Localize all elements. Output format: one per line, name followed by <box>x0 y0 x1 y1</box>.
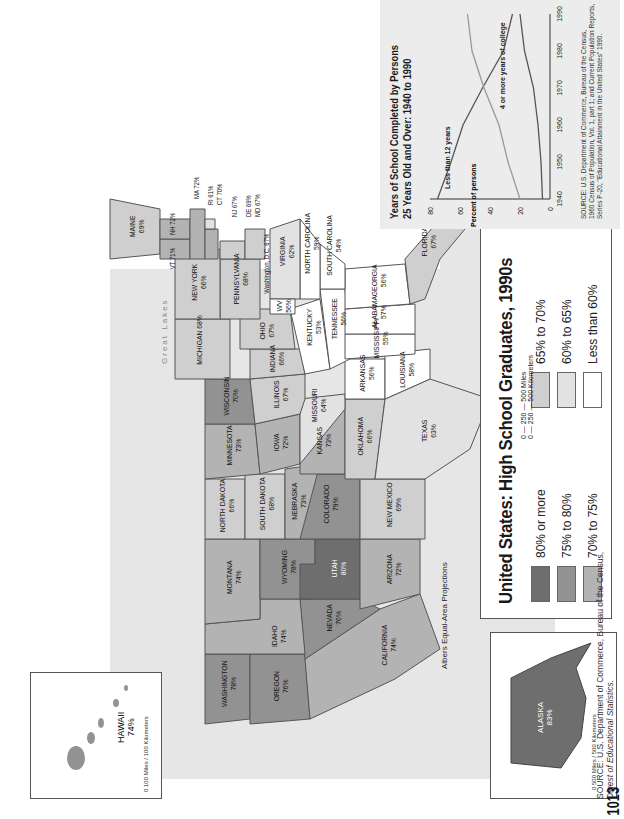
legend-item-60-65: 60% to 65% <box>557 299 576 408</box>
label-indiana: INDIANA66% <box>268 345 286 373</box>
label-md: MD 67% <box>253 194 262 217</box>
legend-swatch <box>531 566 550 602</box>
state-massachusetts <box>190 209 205 259</box>
map-scale-bar: 0 — 250 — 500 Miles 0 — 250 — 500 Kilome… <box>520 355 534 439</box>
label-missouri: MISSOURI64% <box>310 388 328 422</box>
legend-swatch <box>557 566 576 602</box>
legend-item-under-60: Less than 60% <box>583 285 602 408</box>
label-south-carolina: SOUTH CAROLINA54% <box>325 215 343 275</box>
map-title: United States: High School Graduates, 19… <box>495 258 517 604</box>
label-minnesota: MINNESOTA73% <box>225 426 243 466</box>
hawaii-inset: HAWAII74% 0 100 Miles / 100 Kilometers <box>30 672 162 799</box>
label-west-virginia: WV56% <box>275 299 293 313</box>
great-lakes-label: Great Lakes <box>160 298 169 364</box>
svg-text:0: 0 <box>547 207 554 211</box>
svg-text:1970: 1970 <box>556 80 563 96</box>
svg-text:1940: 1940 <box>556 191 563 207</box>
label-utah: UTAH80% <box>330 559 348 577</box>
label-new-york: NEW YORK66% <box>190 264 208 301</box>
label-wyoming: WYOMING78% <box>280 550 298 584</box>
label-alabama: ALABAMA57% <box>370 296 388 328</box>
label-north-carolina: NORTH CAROLINA59% <box>303 213 321 274</box>
label-florida: FLORIDA67% <box>420 227 438 256</box>
chart-source: SOURCE: U.S. Department of Commerce, Bur… <box>580 4 604 219</box>
label-wisconsin: WISCONSIN70% <box>222 376 240 415</box>
label-oregon: OREGON76% <box>272 671 290 701</box>
hawaii-label: HAWAII74% <box>116 712 136 743</box>
state-connecticut <box>205 229 218 259</box>
label-arizona: ARIZONA72% <box>385 554 403 584</box>
map-source: SOURCE: U.S. Department of Commerce, Bur… <box>595 499 615 799</box>
label-idaho: IDAHO74% <box>270 626 288 648</box>
label-oklahoma: OKLAHOMA66% <box>356 417 374 456</box>
series-4plus-college <box>520 14 543 199</box>
legend-item-80-plus: 80% or more <box>531 489 550 602</box>
label-illinois: ILLINOIS67% <box>272 381 290 409</box>
label-ct: CT 70% <box>215 184 224 205</box>
label-california: CALIFORNIA74% <box>380 625 398 666</box>
label-kentucky: KENTUCKY53% <box>305 309 323 346</box>
hawaii-shape <box>31 673 161 798</box>
label-iowa: IOWA72% <box>272 434 290 452</box>
chart-title: Years of School Completed by Persons 25 … <box>388 45 414 219</box>
label-louisiana: LOUISIANA58% <box>398 352 416 388</box>
alaska-label: ALASKA83% <box>536 702 554 733</box>
label-nj: NJ 67% <box>230 196 239 217</box>
chart-ylabel: Percent of persons <box>470 164 477 227</box>
label-nh: NH 72% <box>168 213 177 235</box>
svg-text:60: 60 <box>457 207 464 215</box>
label-texas: TEXAS63% <box>420 420 438 442</box>
label-north-dakota: NORTH DAKOTA66% <box>218 479 236 532</box>
label-michigan: MICHIGAN 68% <box>195 315 204 365</box>
svg-text:1980: 1980 <box>556 43 563 59</box>
page-number: 1013 <box>605 787 623 815</box>
svg-text:1960: 1960 <box>556 117 563 133</box>
label-washington-dc: Washington, D.C. 67% <box>262 234 271 294</box>
label-ma: MA 72% <box>192 177 201 199</box>
svg-text:80: 80 <box>427 207 434 215</box>
label-de: DE 69% <box>244 195 253 217</box>
label-tennessee: TENNESSEE56% <box>330 298 348 339</box>
svg-text:40: 40 <box>487 207 494 215</box>
map-legend: United States: High School Graduates, 19… <box>480 217 612 619</box>
hawaii-scale: 0 100 Miles / 100 Kilometers <box>143 716 149 792</box>
legend-swatch <box>583 372 602 408</box>
label-new-mexico: NEW MEXICO69% <box>385 482 403 527</box>
label-ri: RI 61% <box>206 186 215 206</box>
label-south-dakota: SOUTH DAKOTA68% <box>258 477 276 530</box>
svg-text:4 or more years of college: 4 or more years of college <box>499 22 507 109</box>
label-arkansas: ARKANSAS56% <box>358 355 376 392</box>
svg-text:Less than 12 years: Less than 12 years <box>444 126 452 189</box>
label-vt: VT 71% <box>168 248 177 269</box>
label-colorado: COLORADO79% <box>322 485 340 524</box>
label-pennsylvania: PENNSYLVANIA68% <box>232 253 250 304</box>
atlas-page: WASHINGTON78% OREGON76% CALIFORNIA74% NE… <box>0 0 624 819</box>
label-nebraska: NEBRASKA73% <box>290 483 308 520</box>
projection-note: Albers Equal-Area Projections <box>440 562 449 669</box>
education-chart: Years of School Completed by Persons 25 … <box>380 0 620 229</box>
svg-text:1990: 1990 <box>556 6 563 22</box>
label-montana: MONTANA74% <box>225 561 243 594</box>
label-maine: MAINE69% <box>128 216 146 238</box>
label-washington: WASHINGTON78% <box>220 660 238 706</box>
label-nevada: NEVADA76% <box>325 604 343 631</box>
legend-item-75-80: 75% to 80% <box>557 493 576 602</box>
label-georgia: GEORGIA56% <box>370 264 388 296</box>
label-ohio: OHIO67% <box>258 322 276 339</box>
legend-swatch <box>557 372 576 408</box>
label-kansas: KANSAS73% <box>315 427 333 455</box>
chart-plot: 0 20 40 60 80 1940 1950 1960 1970 1980 1… <box>420 0 580 229</box>
svg-text:1950: 1950 <box>556 154 563 170</box>
state-rhode-island <box>205 219 215 229</box>
svg-text:20: 20 <box>517 207 524 215</box>
label-virginia: VIRGINIA62% <box>278 237 296 267</box>
